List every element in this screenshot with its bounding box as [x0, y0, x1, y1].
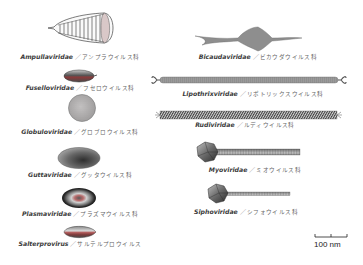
bicaudaviridae-shape	[195, 27, 302, 51]
scientific-name: Fuselloviridae	[26, 84, 75, 91]
rudiviridae-shape	[155, 111, 342, 119]
separator: ／	[73, 210, 79, 217]
label-myoviridae: Myoviridae／ミオウイルス科	[209, 167, 301, 174]
scientific-name: Salterprovirus	[19, 240, 69, 247]
salterprovirus-shape	[64, 226, 96, 237]
scientific-name: Plasmaviridae	[22, 210, 71, 217]
lipothrixviridae-shape	[152, 77, 346, 84]
scientific-name: Rudiviridae	[195, 121, 235, 128]
scale-bar-label: 100 nm	[314, 240, 341, 249]
scientific-name: Guttaviridae	[28, 171, 72, 178]
japanese-name: シフォウイルス科	[247, 209, 298, 215]
separator: ／	[240, 90, 246, 97]
scientific-name: Ampullaviridae	[20, 53, 73, 60]
label-globuloviridae: Globuloviridae／グロブロウイルス科	[21, 129, 138, 136]
japanese-name: ルディウイルス科	[244, 122, 295, 128]
japanese-name: ミオウイルス科	[256, 167, 301, 173]
japanese-name: ビカウダウイルス科	[260, 54, 318, 60]
separator: ／	[74, 128, 80, 135]
japanese-name: プラズマウイルス科	[80, 211, 138, 217]
label-fuselloviridae: Fuselloviridae／フセロウイルス科	[26, 85, 135, 92]
separator: ／	[237, 121, 243, 128]
label-guttaviridae: Guttaviridae／グッタウイルス科	[28, 172, 132, 179]
fuselloviridae-shape	[64, 70, 97, 82]
scientific-name: Lipothrixviridae	[182, 90, 237, 97]
label-lipothrixviridae: Lipothrixviridae／リポトリックスウイルス科	[182, 91, 323, 98]
plasmaviridae-shape	[62, 188, 96, 208]
separator: ／	[240, 208, 246, 215]
separator: ／	[70, 240, 76, 247]
japanese-name: フセロウイルス科	[83, 85, 134, 91]
japanese-name: グッタウイルス科	[81, 172, 132, 178]
japanese-name: リポトリックスウイルス科	[247, 91, 324, 97]
myoviridae-shape	[197, 142, 300, 162]
separator: ／	[74, 171, 80, 178]
japanese-name: グロブロウイルス科	[81, 129, 139, 135]
guttaviridae-shape	[58, 148, 100, 169]
label-ampullaviridae: Ampullaviridae／アンプラウイルス科	[20, 54, 139, 61]
separator: ／	[76, 84, 82, 91]
ampullaviridae-shape	[48, 13, 113, 43]
scale-bar	[315, 234, 347, 237]
scientific-name: Globuloviridae	[21, 128, 72, 135]
label-plasmaviridae: Plasmaviridae／プラズマウイルス科	[22, 211, 138, 218]
scientific-name: Myoviridae	[209, 166, 248, 173]
separator: ／	[249, 166, 255, 173]
siphoviridae-shape	[208, 184, 290, 203]
globuloviridae-shape	[69, 95, 96, 122]
japanese-name: アンプラウイルス科	[82, 54, 140, 60]
japanese-name: サルテルプロウイルス	[77, 241, 141, 247]
separator: ／	[75, 53, 81, 60]
label-siphoviridae: Siphoviridae／シフォウイルス科	[194, 209, 298, 216]
scientific-name: Bicaudaviridae	[199, 53, 251, 60]
separator: ／	[253, 53, 259, 60]
label-rudiviridae: Rudiviridae／ルディウイルス科	[195, 122, 295, 129]
label-bicaudaviridae: Bicaudaviridae／ビカウダウイルス科	[199, 54, 317, 61]
label-salterprovirus: Salterprovirus／サルテルプロウイルス	[19, 241, 142, 248]
scientific-name: Siphoviridae	[194, 208, 238, 215]
